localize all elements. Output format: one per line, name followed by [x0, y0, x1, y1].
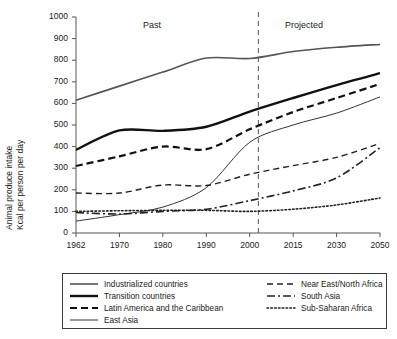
legend-column-right: Near East/North AfricaSouth AsiaSub-Saha… — [266, 278, 386, 314]
x-tick-label: 1980 — [153, 240, 172, 250]
x-tick-label: 2050 — [371, 240, 390, 250]
legend-line-swatch — [69, 303, 99, 313]
legend-line-swatch — [266, 291, 296, 301]
legend-item[interactable]: Industrialized countries — [69, 278, 269, 290]
y-tick-label: 0 — [28, 227, 68, 237]
legend-line-swatch — [266, 303, 296, 313]
y-tick-label: 500 — [28, 119, 68, 129]
y-tick-label: 800 — [28, 54, 68, 64]
legend-item[interactable]: Latin America and the Caribbean — [69, 302, 269, 314]
legend-item-label: East Asia — [104, 316, 138, 325]
x-tick-label: 2030 — [327, 240, 346, 250]
legend-item[interactable]: South Asia — [266, 290, 386, 302]
legend-item[interactable]: Transition countries — [69, 290, 269, 302]
y-tick-label: 700 — [28, 76, 68, 86]
chart-legend: Industrialized countriesTransition count… — [62, 273, 387, 329]
legend-item-label: Sub-Saharan Africa — [301, 304, 372, 313]
legend-item-label: South Asia — [301, 292, 340, 301]
legend-line-swatch — [266, 279, 296, 289]
legend-item-label: Near East/North Africa — [301, 280, 382, 289]
legend-item-label: Industrialized countries — [104, 280, 188, 289]
y-tick-label: 100 — [28, 205, 68, 215]
series-line — [76, 97, 380, 221]
x-tick-label: 2000 — [240, 240, 259, 250]
y-tick-label: 200 — [28, 184, 68, 194]
x-tick-label: 2015 — [284, 240, 303, 250]
chart-figure: Animal produce intake Kcal per person pe… — [0, 0, 397, 339]
y-tick-label: 900 — [28, 33, 68, 43]
series-line — [76, 84, 380, 166]
series-line — [76, 44, 380, 100]
x-tick-label: 1962 — [67, 240, 86, 250]
series-line — [76, 143, 380, 193]
series-lines — [76, 44, 380, 221]
y-tick-label: 400 — [28, 141, 68, 151]
legend-line-swatch — [69, 315, 99, 325]
legend-item-label: Latin America and the Caribbean — [104, 304, 223, 313]
legend-column-left: Industrialized countriesTransition count… — [69, 278, 269, 326]
x-tick-label: 1990 — [197, 240, 216, 250]
x-tick-label: 1970 — [110, 240, 129, 250]
legend-item[interactable]: East Asia — [69, 314, 269, 326]
series-line — [76, 198, 380, 211]
axes — [72, 17, 380, 237]
legend-line-swatch — [69, 279, 99, 289]
legend-item[interactable]: Sub-Saharan Africa — [266, 302, 386, 314]
y-tick-label: 300 — [28, 162, 68, 172]
legend-item[interactable]: Near East/North Africa — [266, 278, 386, 290]
legend-line-swatch — [69, 291, 99, 301]
y-tick-label: 1000 — [28, 11, 68, 21]
legend-item-label: Transition countries — [104, 292, 175, 301]
y-tick-label: 600 — [28, 97, 68, 107]
